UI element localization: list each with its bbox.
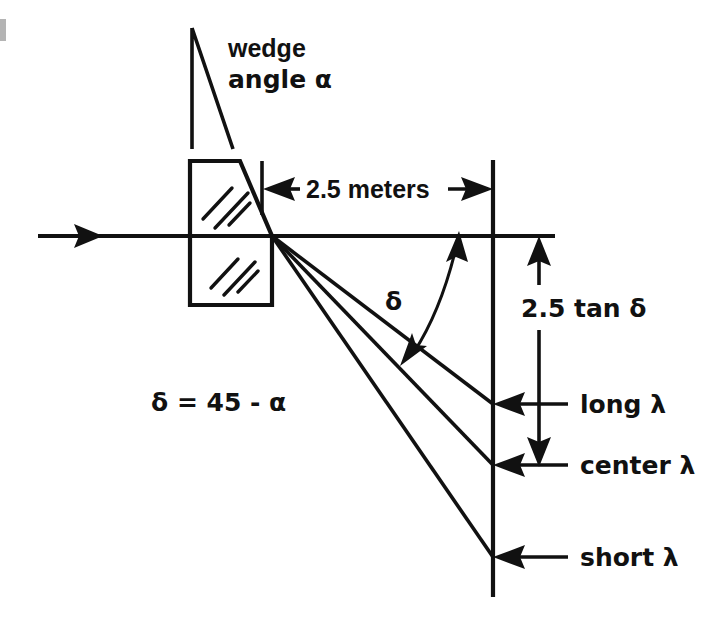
ray-long-label: long λ xyxy=(580,390,666,419)
ray-center-label: center λ xyxy=(580,451,696,480)
vertical-dimension-2-5-tan-delta xyxy=(527,236,551,467)
prism-glass-hatch-marks xyxy=(203,188,258,295)
dispersed-ray-short-wavelength xyxy=(272,236,493,557)
wedge-angle-label-line1: wedge xyxy=(227,34,306,62)
delta-angle-arc xyxy=(400,231,468,366)
vertical-offset-label: 2.5 tan δ xyxy=(521,294,647,323)
wedge-angle-triangle xyxy=(192,28,233,149)
optics-diagram-canvas: 2.5 meters δ 2.5 tan δ xyxy=(0,0,715,636)
optics-diagram-figure: 2.5 meters δ 2.5 tan δ xyxy=(0,0,715,636)
scan-edge-artifact xyxy=(0,19,6,41)
wedge-prism-body xyxy=(190,161,272,305)
delta-equation-label: δ = 45 - α xyxy=(151,388,286,417)
callout-long-lambda xyxy=(493,392,568,416)
delta-angle-label: δ xyxy=(385,287,402,316)
distance-label: 2.5 meters xyxy=(306,175,430,203)
dispersed-ray-center-wavelength xyxy=(272,236,493,465)
wedge-angle-label-line2: angle α xyxy=(228,65,332,94)
dispersed-ray-long-wavelength xyxy=(272,236,493,404)
ray-short-label: short λ xyxy=(580,543,679,572)
callout-center-lambda xyxy=(493,453,568,477)
callout-short-lambda xyxy=(493,545,568,569)
